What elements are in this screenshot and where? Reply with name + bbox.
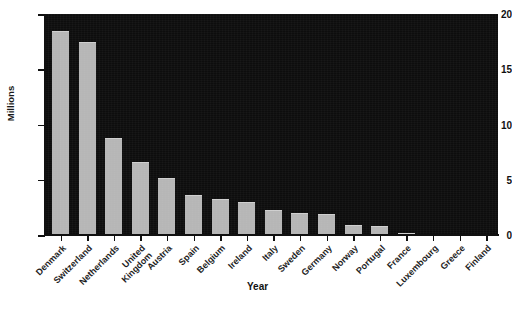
x-axis-tick xyxy=(380,236,382,241)
x-axis-title: Year xyxy=(247,281,268,292)
y-axis-title: Millions xyxy=(5,72,16,136)
x-axis-tick xyxy=(406,236,408,241)
bar xyxy=(52,31,69,235)
x-axis-tick xyxy=(273,236,275,241)
y-axis-tick xyxy=(38,180,45,182)
x-axis-tick xyxy=(353,236,355,241)
x-axis-tick xyxy=(300,236,302,241)
bar xyxy=(105,138,122,235)
y-axis-tick-label: 15 xyxy=(478,64,512,75)
y-axis-tick xyxy=(38,125,45,127)
bar xyxy=(79,42,96,235)
bar xyxy=(158,178,175,235)
x-axis-tick xyxy=(247,236,249,241)
bar xyxy=(238,202,255,235)
y-axis-tick-label: 20 xyxy=(478,9,512,20)
x-axis-tick xyxy=(327,236,329,241)
x-axis-tick xyxy=(114,236,116,241)
y-axis-tick-label: 10 xyxy=(478,119,512,130)
x-axis-line xyxy=(44,234,499,236)
x-axis-tick xyxy=(486,236,488,241)
bar-series xyxy=(45,14,498,235)
bar xyxy=(132,162,149,235)
x-axis-tick xyxy=(87,236,89,241)
y-axis-tick xyxy=(38,235,45,237)
y-axis-tick xyxy=(38,14,45,16)
x-axis-tick xyxy=(460,236,462,241)
bar xyxy=(212,199,229,235)
bar xyxy=(291,213,308,235)
y-axis-tick-label: 0 xyxy=(478,230,512,241)
x-axis-tick xyxy=(167,236,169,241)
x-axis-tick xyxy=(220,236,222,241)
y-axis-tick-label: 5 xyxy=(478,174,512,185)
bar-chart-figure: Millions 05101520 DenmarkSwitzerlandNeth… xyxy=(0,0,512,311)
y-axis-tick xyxy=(38,69,45,71)
x-axis-tick xyxy=(194,236,196,241)
plot-area xyxy=(45,14,498,235)
bar xyxy=(185,195,202,235)
bar xyxy=(318,214,335,235)
x-axis-tick xyxy=(433,236,435,241)
x-axis-tick xyxy=(140,236,142,241)
bar xyxy=(265,210,282,235)
x-axis-tick xyxy=(61,236,63,241)
